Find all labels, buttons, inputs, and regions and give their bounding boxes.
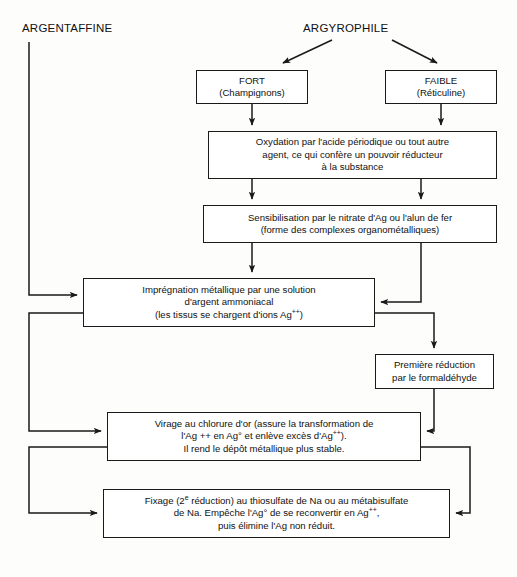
node-premiere-reduction[interactable]: Première réductionpar le formaldéhyde [375,354,494,389]
node-virage[interactable]: Virage au chlorure d'or (assure la trans… [107,412,421,461]
edge-virage-to-fixage [29,447,107,513]
node-impregnation[interactable]: Imprégnation métallique par une solution… [83,278,375,327]
node-sensibilisation[interactable]: Sensibilisation par le nitrate d'Ag ou l… [203,205,497,243]
edge-argentaffine-rail [29,42,77,295]
edge-argyrophile-to-faible [392,40,437,63]
node-oxydation[interactable]: Oxydation par l'acide périodique ou tout… [208,131,497,179]
edge-premiere-to-virage [427,389,434,431]
heading-argentaffine: ARGENTAFFINE [22,22,112,34]
flowchart-canvas: ARGENTAFFINE ARGYROPHILE FORT(Champignon… [0,0,517,577]
edge-argyrophile-to-fort [283,40,332,63]
edge-impregnation-to-virage [29,313,101,431]
node-fort[interactable]: FORT(Champignons) [196,70,308,104]
edge-impregnation-to-premiere [375,313,434,348]
node-faible[interactable]: FAIBLE(Réticuline) [385,70,497,104]
edge-sensibilisation-right-elbow [381,243,421,302]
node-fixage[interactable]: Fixage (2e réduction) au thiosulfate de … [103,489,450,538]
heading-argyrophile: ARGYROPHILE [303,22,388,34]
